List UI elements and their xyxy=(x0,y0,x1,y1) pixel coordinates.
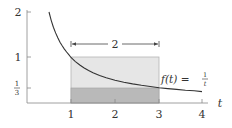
y-label-2: 2 xyxy=(15,6,22,19)
y-label-third-num: 1 xyxy=(15,80,19,88)
width-marker-label: 2 xyxy=(112,38,119,51)
arrowhead-right-icon xyxy=(154,42,158,45)
y-label-third-den: 3 xyxy=(15,89,19,97)
x-label-4: 4 xyxy=(199,108,206,121)
x-label-3: 3 xyxy=(156,108,163,121)
x-label-2: 2 xyxy=(112,108,119,121)
curve-label-num: 1 xyxy=(203,71,207,79)
arrowhead-left-icon xyxy=(72,42,76,45)
function-diagram: 2 2 1 1 3 1 2 3 4 t f(t) = 1 t xyxy=(0,0,232,128)
curve-label-den: t xyxy=(204,80,207,88)
x-label-1: 1 xyxy=(68,108,75,121)
y-label-1: 1 xyxy=(15,51,22,64)
x-axis-label: t xyxy=(218,97,223,110)
curve-label: f(t) = xyxy=(160,73,189,85)
